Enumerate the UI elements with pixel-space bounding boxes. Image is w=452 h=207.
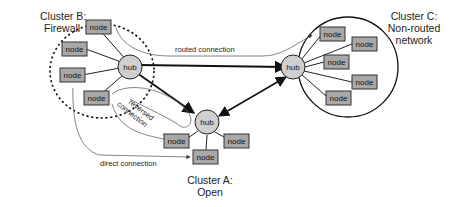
cluster-c-title-line2: Non-routed <box>388 22 441 34</box>
a-c-connection-arrow <box>219 77 286 116</box>
node-b-2: node <box>62 42 87 56</box>
hub-label: hub <box>200 118 214 127</box>
node-label: node <box>64 71 82 80</box>
hub-cluster-a: hub <box>195 110 219 134</box>
direct-connection-label: direct connection <box>100 159 157 168</box>
hub-label: hub <box>286 63 300 72</box>
node-b-1: node <box>86 20 111 34</box>
node-label: node <box>197 153 215 162</box>
routed-connection-label: routed connection <box>175 45 235 54</box>
node-b-3: node <box>60 68 85 82</box>
node-label: node <box>356 78 374 87</box>
node-a-3: node <box>193 150 218 164</box>
node-c-2: node <box>352 37 377 51</box>
node-label: node <box>168 137 186 146</box>
node-a-2: node <box>224 134 249 148</box>
hub-cluster-b: hub <box>118 55 142 79</box>
node-label: node <box>66 45 84 54</box>
hub-cluster-c: hub <box>281 55 305 79</box>
cluster-a-title-line2: Open <box>197 186 223 198</box>
routed-connection-arrow <box>139 65 286 67</box>
node-label: node <box>330 94 348 103</box>
node-b-4: node <box>84 91 109 105</box>
cluster-c-title-line1: Cluster C: <box>391 10 438 22</box>
node-c-5: node <box>326 91 351 105</box>
node-label: node <box>356 40 374 49</box>
node-a-1: node <box>164 134 189 148</box>
cluster-a-title-line1: Cluster A: <box>187 174 233 186</box>
node-label: node <box>324 30 342 39</box>
cluster-b-title-line2: Firewall <box>44 22 80 34</box>
hub-label: hub <box>123 63 137 72</box>
node-c-4: node <box>352 75 377 89</box>
cluster-b-title-line1: Cluster B: <box>40 10 86 22</box>
node-label: node <box>90 23 108 32</box>
node-label: node <box>88 94 106 103</box>
node-label: node <box>228 137 246 146</box>
node-c-3: node <box>324 55 349 69</box>
network-diagram: hub hub hub node node node node node nod… <box>0 0 452 207</box>
node-c-1: node <box>320 27 345 41</box>
node-label: node <box>328 58 346 67</box>
cluster-c-title-line3: network <box>396 34 434 46</box>
